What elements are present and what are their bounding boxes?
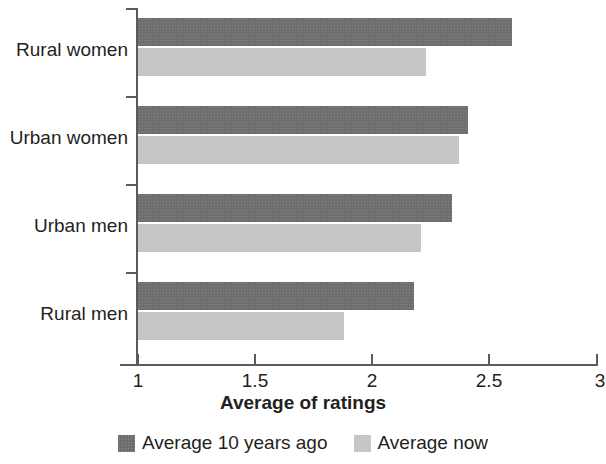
bar-rural-men-now	[138, 312, 344, 340]
value-axis-tick	[488, 354, 490, 366]
category-axis-tick	[126, 184, 138, 186]
value-axis-tick-label: 2	[367, 369, 378, 393]
category-label-urban-men: Urban men	[34, 214, 128, 238]
value-axis-tick-label: 1.5	[242, 369, 268, 393]
category-label-rural-men: Rural men	[40, 302, 128, 326]
legend-swatch-icon	[354, 435, 371, 452]
value-axis-tick-label: 3	[595, 369, 606, 393]
category-axis-tick	[126, 272, 138, 274]
category-label-urban-women: Urban women	[10, 126, 128, 150]
plot-area: 1 1.5 2 2.5 3 Rural women Urban women Ur…	[0, 0, 606, 372]
category-axis-tick	[126, 8, 138, 10]
bar-urban-women-now	[138, 136, 459, 164]
legend-label-now: Average now	[378, 432, 489, 454]
value-axis-tick	[137, 354, 139, 366]
legend-item-ten-years-ago: Average 10 years ago	[118, 432, 328, 454]
chart-legend: Average 10 years ago Average now	[0, 432, 606, 454]
value-axis-line	[120, 364, 598, 366]
bar-urban-women-ten-years-ago	[138, 106, 468, 134]
bar-urban-men-ten-years-ago	[138, 194, 452, 222]
legend-swatch-icon	[118, 435, 135, 452]
legend-item-now: Average now	[354, 432, 489, 454]
bar-chart: 1 1.5 2 2.5 3 Rural women Urban women Ur…	[0, 0, 606, 464]
value-axis-tick	[254, 354, 256, 366]
legend-label-ten-years-ago: Average 10 years ago	[142, 432, 328, 454]
category-axis-tick	[126, 96, 138, 98]
category-label-rural-women: Rural women	[16, 38, 128, 62]
bar-rural-men-ten-years-ago	[138, 282, 414, 310]
bar-urban-men-now	[138, 224, 421, 252]
value-axis-tick	[371, 354, 373, 366]
value-axis-tick-label: 2.5	[476, 369, 502, 393]
value-axis-tick	[596, 354, 598, 366]
value-axis-title: Average of ratings	[0, 392, 606, 414]
bar-rural-women-now	[138, 48, 426, 76]
value-axis-tick-label: 1	[133, 369, 144, 393]
bar-rural-women-ten-years-ago	[138, 18, 512, 46]
